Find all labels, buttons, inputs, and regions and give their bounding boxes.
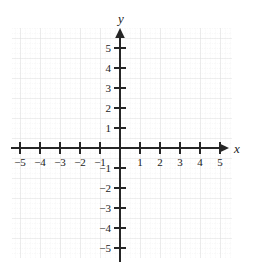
coordinate-plane-figure: −5 −4 −3 −2 −1 1 2 3 4 5 5 4 3 2 1 −1 −2… (0, 0, 254, 271)
coordinate-plane-svg: −5 −4 −3 −2 −1 1 2 3 4 5 5 4 3 2 1 −1 −2… (0, 0, 254, 271)
x-tick-label-5: 5 (217, 156, 223, 168)
major-gridlines (12, 28, 232, 258)
x-axis-label: x (233, 141, 240, 156)
y-tick-label--1: −1 (99, 162, 111, 174)
y-tick-label-4: 4 (106, 62, 112, 74)
y-tick-label--4: −4 (99, 222, 111, 234)
x-tick-label-2: 2 (157, 156, 163, 168)
y-tick-label--3: −3 (99, 202, 111, 214)
y-tick-label-1: 1 (106, 122, 112, 134)
y-axis-label: y (116, 11, 124, 26)
y-tick-label--5: −5 (99, 242, 111, 254)
y-tick-label-3: 3 (106, 82, 112, 94)
x-tick-label-3: 3 (177, 156, 183, 168)
x-tick-label--5: −5 (14, 156, 26, 168)
x-tick-label--4: −4 (34, 156, 46, 168)
x-tick-label--3: −3 (54, 156, 66, 168)
y-tick-label--2: −2 (99, 182, 111, 194)
grid-region (12, 28, 232, 258)
x-tick-label-4: 4 (197, 156, 203, 168)
y-tick-label-5: 5 (106, 42, 112, 54)
x-tick-label-1: 1 (137, 156, 143, 168)
x-tick-label--2: −2 (74, 156, 86, 168)
y-tick-label-2: 2 (106, 102, 112, 114)
